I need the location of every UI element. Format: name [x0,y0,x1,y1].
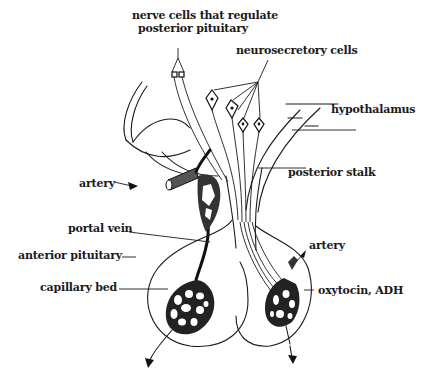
label-capillary-bed: capillary bed [40,282,117,294]
label-neurosecretory-cells: neurosecretory cells [236,45,358,57]
label-nerve-cells-line1: nerve cells that regulate [132,10,278,22]
label-hypothalamus: hypothalamus [331,104,415,116]
label-nerve-cells-line2: posterior pituitary [138,23,248,35]
label-artery-left: artery [79,178,115,190]
label-posterior-stalk: posterior stalk [288,167,375,179]
label-artery-right: artery [309,240,345,252]
label-portal-vein: portal vein [68,223,132,235]
capillary-bed-posterior [265,256,300,364]
pituitary-diagram [0,0,430,379]
leader-lines [114,130,356,290]
portal-vessels [196,174,220,280]
hypothalamus-outline [124,82,218,176]
label-oxytocin-adh: oxytocin, ADH [318,285,403,297]
label-anterior-pituitary: anterior pituitary [18,250,122,262]
